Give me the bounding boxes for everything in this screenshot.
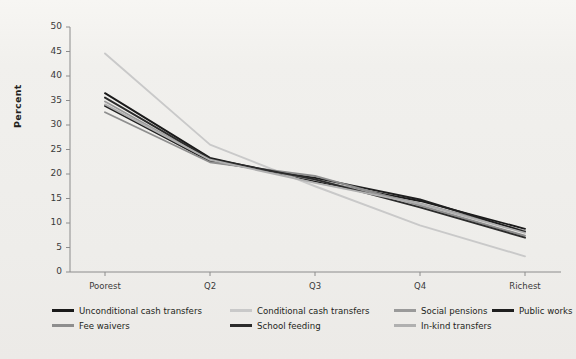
legend-color-swatch xyxy=(394,309,416,312)
series-line xyxy=(105,93,525,229)
legend-item-label: School feeding xyxy=(257,321,321,331)
legend-item-label: Fee waivers xyxy=(79,321,130,331)
legend-color-swatch xyxy=(52,324,74,327)
legend-item[interactable]: School feeding xyxy=(230,318,321,333)
legend-color-swatch xyxy=(492,309,514,312)
legend-item-label: Unconditional cash transfers xyxy=(79,306,202,316)
legend-item-label: Social pensions xyxy=(421,306,487,316)
series-line xyxy=(105,112,525,235)
chart-legend: Unconditional cash transfersConditional … xyxy=(52,303,572,345)
legend-item-label: Public works xyxy=(519,306,572,316)
legend-color-swatch xyxy=(52,309,74,312)
axis-lines xyxy=(66,27,561,276)
legend-row: Fee waiversSchool feedingIn-kind transfe… xyxy=(52,318,572,333)
legend-item-label: In-kind transfers xyxy=(421,321,492,331)
legend-color-swatch xyxy=(394,324,416,327)
legend-item[interactable]: Fee waivers xyxy=(52,318,130,333)
legend-color-swatch xyxy=(230,324,252,327)
legend-item[interactable]: Unconditional cash transfers xyxy=(52,303,202,318)
series-line xyxy=(105,53,525,256)
series-lines xyxy=(105,53,525,256)
legend-row: Unconditional cash transfersConditional … xyxy=(52,303,572,318)
legend-color-swatch xyxy=(230,309,252,312)
legend-item-label: Conditional cash transfers xyxy=(257,306,369,316)
legend-item[interactable]: Social pensions xyxy=(394,303,487,318)
legend-item[interactable]: In-kind transfers xyxy=(394,318,492,333)
chart-figure: Percent 05101520253035404550 PoorestQ2Q3… xyxy=(0,0,576,359)
legend-item[interactable]: Conditional cash transfers xyxy=(230,303,369,318)
legend-item[interactable]: Public works xyxy=(492,303,572,318)
series-line xyxy=(105,106,525,232)
